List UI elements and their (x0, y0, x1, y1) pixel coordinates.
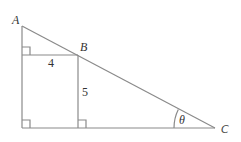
theta-label: θ (179, 113, 185, 127)
right-angle-marker-top-left (22, 47, 30, 55)
side-length-5: 5 (82, 85, 88, 99)
point-label-b: B (80, 40, 88, 54)
side-length-4: 4 (48, 56, 54, 70)
theta-angle-arc (174, 110, 178, 129)
point-label-a: A (11, 13, 20, 27)
hypotenuse-ac (22, 26, 215, 128)
geometry-diagram: A B C θ 4 5 (0, 0, 241, 142)
right-angle-marker-bottom-left (22, 120, 30, 128)
point-label-c: C (221, 123, 229, 136)
right-angle-marker-bottom-b (78, 120, 86, 128)
